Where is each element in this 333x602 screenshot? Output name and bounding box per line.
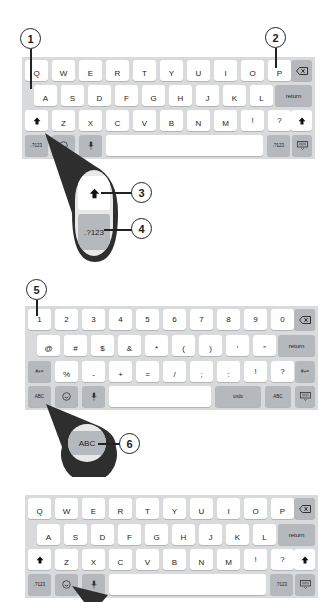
key-f[interactable]: F: [118, 524, 141, 545]
key-j[interactable]: J: [196, 85, 219, 106]
undo-key[interactable]: undo: [215, 386, 261, 407]
key-y[interactable]: Y: [163, 498, 186, 519]
key-t[interactable]: T: [133, 60, 156, 81]
key-equals[interactable]: =: [136, 361, 159, 382]
abc-key-right[interactable]: ABC: [265, 386, 291, 407]
key-r[interactable]: R: [106, 60, 129, 81]
key-at[interactable]: @: [37, 335, 60, 356]
key-s[interactable]: S: [61, 85, 84, 106]
key-semicolon[interactable]: ;: [190, 361, 213, 382]
backspace-key[interactable]: [291, 60, 312, 81]
key-minus[interactable]: -: [82, 361, 105, 382]
space-bar[interactable]: [109, 574, 266, 595]
key-5[interactable]: 5: [136, 309, 159, 330]
key-e[interactable]: E: [82, 498, 105, 519]
key-exclamation[interactable]: !: [244, 361, 267, 382]
key-quote[interactable]: ”: [253, 335, 276, 356]
key-paren-close[interactable]: ): [199, 335, 222, 356]
key-4[interactable]: 4: [109, 309, 132, 330]
key-n[interactable]: N: [190, 549, 213, 570]
key-slash[interactable]: /: [163, 361, 186, 382]
key-dollar[interactable]: $: [91, 335, 114, 356]
key-percent[interactable]: %: [55, 361, 78, 382]
key-y[interactable]: Y: [160, 60, 183, 81]
key-d[interactable]: D: [91, 524, 114, 545]
key-o[interactable]: O: [244, 498, 267, 519]
key-u[interactable]: U: [190, 498, 213, 519]
backspace-key[interactable]: [294, 309, 315, 330]
key-w[interactable]: W: [52, 60, 75, 81]
key-v[interactable]: V: [136, 549, 159, 570]
key-o[interactable]: O: [241, 60, 264, 81]
numbers-key-left[interactable]: .?123: [28, 574, 51, 595]
return-key[interactable]: return: [275, 85, 312, 106]
numbers-key-right[interactable]: .?123: [267, 135, 290, 156]
symbols-key-right[interactable]: #+=: [295, 361, 315, 382]
symbols-key-left[interactable]: #+=: [28, 361, 51, 382]
key-3[interactable]: 3: [82, 309, 105, 330]
backspace-key[interactable]: [294, 498, 315, 519]
key-a[interactable]: A: [37, 524, 60, 545]
key-k[interactable]: K: [226, 524, 249, 545]
key-e[interactable]: E: [79, 60, 102, 81]
key-paren-open[interactable]: (: [172, 335, 195, 356]
key-v[interactable]: V: [133, 110, 156, 131]
shift-key-right[interactable]: [291, 110, 312, 131]
key-colon[interactable]: :: [217, 361, 240, 382]
hide-keyboard-key[interactable]: [295, 386, 315, 407]
key-g[interactable]: G: [142, 85, 165, 106]
key-r[interactable]: R: [109, 498, 132, 519]
numbers-key-right[interactable]: .?123: [270, 574, 293, 595]
key-0[interactable]: 0: [271, 309, 294, 330]
key-i[interactable]: I: [217, 498, 240, 519]
key-asterisk[interactable]: *: [145, 335, 168, 356]
space-bar[interactable]: [109, 386, 211, 407]
key-n[interactable]: N: [187, 110, 210, 131]
key-z[interactable]: Z: [55, 549, 78, 570]
return-key[interactable]: return: [278, 524, 315, 545]
key-1[interactable]: 1: [28, 309, 51, 330]
key-b[interactable]: B: [163, 549, 186, 570]
key-hash[interactable]: #: [64, 335, 87, 356]
key-h[interactable]: H: [172, 524, 195, 545]
key-q[interactable]: Q: [25, 60, 48, 81]
key-b[interactable]: B: [160, 110, 183, 131]
key-h[interactable]: H: [169, 85, 192, 106]
key-d[interactable]: D: [88, 85, 111, 106]
key-6[interactable]: 6: [163, 309, 186, 330]
key-exclamation[interactable]: !: [241, 110, 264, 131]
key-l[interactable]: L: [250, 85, 273, 106]
hide-keyboard-key[interactable]: [295, 574, 315, 595]
key-m[interactable]: M: [214, 110, 237, 131]
key-question[interactable]: ?: [271, 361, 294, 382]
key-question[interactable]: ?: [268, 110, 291, 131]
key-9[interactable]: 9: [244, 309, 267, 330]
key-k[interactable]: K: [223, 85, 246, 106]
key-question[interactable]: ?: [271, 549, 294, 570]
key-s[interactable]: S: [64, 524, 87, 545]
key-7[interactable]: 7: [190, 309, 213, 330]
key-a[interactable]: A: [34, 85, 57, 106]
hide-keyboard-key[interactable]: [292, 135, 312, 156]
key-u[interactable]: U: [187, 60, 210, 81]
key-ampersand[interactable]: &: [118, 335, 141, 356]
key-f[interactable]: F: [115, 85, 138, 106]
key-apostrophe[interactable]: ’: [226, 335, 249, 356]
key-plus[interactable]: +: [109, 361, 132, 382]
key-t[interactable]: T: [136, 498, 159, 519]
key-p[interactable]: P: [271, 498, 294, 519]
key-m[interactable]: M: [217, 549, 240, 570]
key-2[interactable]: 2: [55, 309, 78, 330]
key-c[interactable]: C: [109, 549, 132, 570]
key-i[interactable]: I: [214, 60, 237, 81]
key-p[interactable]: P: [268, 60, 291, 81]
key-w[interactable]: W: [55, 498, 78, 519]
key-exclamation[interactable]: !: [244, 549, 267, 570]
key-x[interactable]: X: [82, 549, 105, 570]
key-j[interactable]: J: [199, 524, 222, 545]
shift-key-right[interactable]: [294, 549, 315, 570]
return-key[interactable]: return: [278, 335, 315, 356]
shift-key-left[interactable]: [28, 549, 51, 570]
key-q[interactable]: Q: [28, 498, 51, 519]
key-8[interactable]: 8: [217, 309, 240, 330]
